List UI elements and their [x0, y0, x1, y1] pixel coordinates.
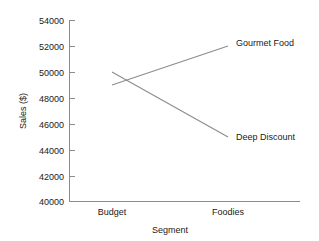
line-chart: 54000 52000 50000 48000 46000 44000 4200…: [0, 0, 319, 241]
y-axis-title: Sales ($): [18, 93, 28, 129]
x-tick-label-budget: Budget: [98, 207, 127, 217]
x-axis-title: Segment: [152, 225, 189, 235]
series-label-deep-discount: Deep Discount: [236, 132, 296, 142]
chart-canvas: 54000 52000 50000 48000 46000 44000 4200…: [0, 0, 319, 241]
y-tick-label: 48000: [39, 94, 64, 104]
series-label-gourmet-food: Gourmet Food: [236, 38, 294, 48]
y-tick-label: 46000: [39, 120, 64, 130]
y-tick-label: 52000: [39, 42, 64, 52]
y-tick-label: 42000: [39, 172, 64, 182]
y-tick-label: 54000: [39, 16, 64, 26]
x-tick-label-foodies: Foodies: [212, 207, 245, 217]
y-tick-label: 44000: [39, 146, 64, 156]
y-tick-label: 40000: [39, 197, 64, 207]
y-tick-label: 50000: [39, 68, 64, 78]
